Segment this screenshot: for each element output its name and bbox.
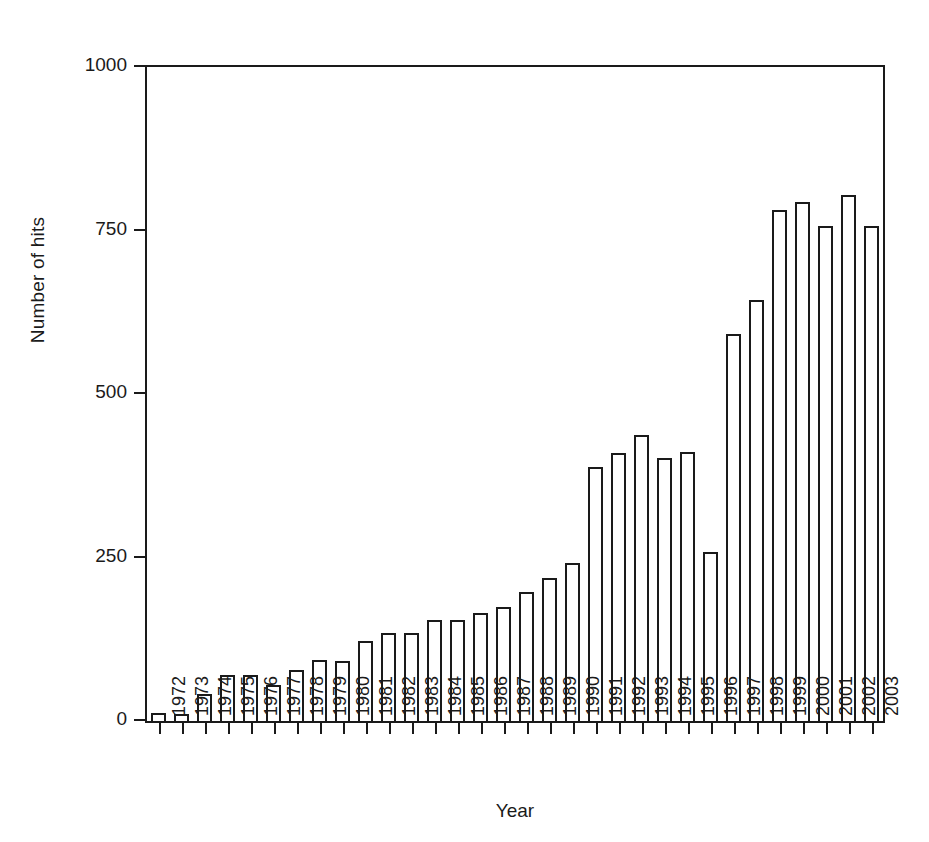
x-axis-tick: 1972 (159, 721, 161, 734)
bar (864, 226, 878, 721)
bar (795, 202, 809, 721)
x-axis-tick: 1990 (573, 721, 575, 734)
x-axis-tick: 1996 (711, 721, 713, 734)
x-axis-tick: 1975 (228, 721, 230, 734)
y-axis-tick-label: 0 (116, 708, 127, 730)
x-axis-tick: 1995 (688, 721, 690, 734)
x-axis-tick-label: 1991 (607, 676, 625, 740)
x-axis-tick-label: 1982 (400, 676, 418, 740)
x-axis-tick: 1992 (619, 721, 621, 734)
x-axis-tick: 1978 (297, 721, 299, 734)
x-axis-tick: 1977 (274, 721, 276, 734)
x-axis-tick: 1994 (665, 721, 667, 734)
x-axis-tick-label: 1987 (515, 676, 533, 740)
plot-area: 0250500750100019721973197419751976197719… (145, 65, 885, 723)
x-axis-tick-label: 2000 (814, 676, 832, 740)
x-axis-tick-label: 1998 (768, 676, 786, 740)
x-axis-tick: 2002 (849, 721, 851, 734)
x-axis-tick: 1998 (757, 721, 759, 734)
bar (841, 195, 855, 721)
x-axis-tick: 1988 (527, 721, 529, 734)
x-axis-tick: 1991 (596, 721, 598, 734)
x-axis-tick: 1983 (412, 721, 414, 734)
x-axis-tick: 1989 (550, 721, 552, 734)
x-axis-tick-label: 1973 (193, 676, 211, 740)
bars-container (147, 67, 883, 721)
x-axis-tick: 1997 (734, 721, 736, 734)
x-axis-tick-label: 2001 (837, 676, 855, 740)
x-axis-tick: 1980 (343, 721, 345, 734)
x-axis-tick-label: 1978 (308, 676, 326, 740)
y-axis-tick: 250 (134, 556, 147, 558)
x-axis-tick: 1984 (435, 721, 437, 734)
x-axis-tick-label: 2003 (883, 676, 901, 740)
y-axis-tick: 500 (134, 392, 147, 394)
x-axis-tick-label: 1980 (354, 676, 372, 740)
x-axis-tick: 1981 (366, 721, 368, 734)
x-axis-tick-label: 1972 (170, 676, 188, 740)
y-axis-tick: 1000 (134, 65, 147, 67)
y-axis-tick-label: 1000 (85, 54, 127, 76)
x-axis-tick-label: 1988 (538, 676, 556, 740)
x-axis-tick-label: 1984 (446, 676, 464, 740)
x-axis-tick: 1986 (481, 721, 483, 734)
x-axis-tick-label: 1992 (630, 676, 648, 740)
x-axis-tick-label: 1995 (699, 676, 717, 740)
bar (726, 334, 740, 721)
bar (151, 713, 165, 721)
x-axis-tick-label: 1996 (722, 676, 740, 740)
y-axis-tick-label: 750 (95, 218, 127, 240)
bar-chart-figure: Number of hits 0250500750100019721973197… (0, 0, 929, 842)
x-axis-tick: 1973 (182, 721, 184, 734)
x-axis-tick-label: 2002 (860, 676, 878, 740)
y-axis-tick: 0 (134, 719, 147, 721)
x-axis-tick: 1979 (320, 721, 322, 734)
x-axis-tick: 1974 (205, 721, 207, 734)
x-axis-tick-label: 1999 (791, 676, 809, 740)
x-axis-tick: 2001 (826, 721, 828, 734)
x-axis-tick-label: 1974 (216, 676, 234, 740)
x-axis-tick: 1982 (389, 721, 391, 734)
x-axis-tick-label: 1985 (469, 676, 487, 740)
x-axis-tick-label: 1975 (239, 676, 257, 740)
x-axis-tick: 2003 (872, 721, 874, 734)
x-axis-tick-label: 1990 (584, 676, 602, 740)
x-axis-tick: 1999 (780, 721, 782, 734)
x-axis-tick: 1985 (458, 721, 460, 734)
x-axis-tick-label: 1986 (492, 676, 510, 740)
x-axis-tick: 1993 (642, 721, 644, 734)
x-axis-tick-label: 1993 (653, 676, 671, 740)
y-axis-tick: 750 (134, 229, 147, 231)
x-axis-tick-label: 1994 (676, 676, 694, 740)
x-axis-tick-label: 1997 (745, 676, 763, 740)
bar (749, 300, 763, 721)
y-axis-tick-label: 250 (95, 545, 127, 567)
x-axis-title: Year (145, 800, 885, 822)
bar (772, 210, 786, 721)
x-axis-tick-label: 1989 (561, 676, 579, 740)
y-axis-tick-label: 500 (95, 381, 127, 403)
x-axis-tick: 2000 (803, 721, 805, 734)
x-axis-tick-label: 1977 (285, 676, 303, 740)
x-axis-tick: 1987 (504, 721, 506, 734)
x-axis-tick: 1976 (251, 721, 253, 734)
x-axis-tick-label: 1976 (262, 676, 280, 740)
bar (818, 226, 832, 721)
x-axis-tick-label: 1981 (377, 676, 395, 740)
x-axis-tick-label: 1979 (331, 676, 349, 740)
x-axis-tick-label: 1983 (423, 676, 441, 740)
y-axis-title: Number of hits (18, 190, 58, 370)
